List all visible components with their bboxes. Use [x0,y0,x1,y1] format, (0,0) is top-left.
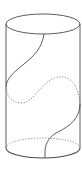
helix-front-lower [45,104,80,158]
cylinder-bottom-front-arc [6,148,80,158]
helix-front-upper [6,34,44,86]
cylinder-helix-diagram [0,0,82,173]
cylinder-bottom-back-arc [6,138,80,148]
helix-back-hidden [6,77,80,104]
cylinder-top-ellipse [6,14,80,34]
